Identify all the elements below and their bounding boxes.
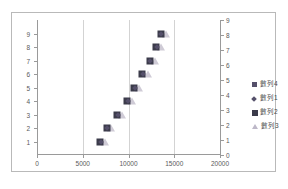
legend-marker-icon [252,124,258,129]
bar[interactable] [38,110,175,119]
y-axis-tick-label: 1 [16,138,30,145]
bar[interactable] [38,97,175,106]
y-axis-tick [34,88,37,89]
y-axis-tick [34,74,37,75]
x-axis-tick-label: 20000 [211,160,229,167]
y-axis-tick-label: 9 [16,30,30,37]
secondary-y-axis-tick [221,50,224,51]
secondary-y-axis-tick-label: 0 [226,152,230,159]
chart-object-frame[interactable]: 123456789 0123456789 0500010000150002000… [11,12,276,172]
secondary-y-axis-tick-label: 1 [226,137,230,144]
y-axis-tick-label: 6 [16,71,30,78]
secondary-y-axis-tick [221,20,224,21]
y-axis-tick-label: 2 [16,125,30,132]
y-axis-tick-label: 3 [16,111,30,118]
plot-inner [37,20,220,155]
legend-item-label: 數列1 [260,95,278,102]
secondary-y-axis-tick-label: 7 [226,47,230,54]
x-axis-tick [129,155,130,158]
x-axis-tick-label: 15000 [165,160,183,167]
legend-marker-icon [252,110,258,116]
legend-marker-icon [251,96,257,102]
legend-item[interactable]: 數列4 [252,79,288,90]
x-axis-tick [83,155,84,158]
y-axis-tick [34,128,37,129]
legend-item[interactable]: 數列3 [252,121,288,132]
secondary-y-axis-tick [221,110,224,111]
screenshot-root: 123456789 0123456789 0500010000150002000… [0,0,288,189]
y-axis-tick [34,61,37,62]
secondary-y-axis-tick [221,140,224,141]
x-axis-tick-label: 5000 [76,160,90,167]
y-axis-tick [34,34,37,35]
secondary-y-axis-tick-label: 2 [226,122,230,129]
secondary-y-axis-tick [221,95,224,96]
legend-item[interactable]: 數列2 [252,107,288,118]
secondary-y-axis-tick-label: 9 [226,17,230,24]
y-axis-tick-label: 5 [16,84,30,91]
bar[interactable] [38,29,175,38]
secondary-y-axis-tick [221,125,224,126]
x-axis-tick [37,155,38,158]
secondary-y-axis-tick-label: 5 [226,77,230,84]
x-axis-tick-label: 0 [35,160,39,167]
y-axis-tick [34,115,37,116]
legend-item-label: 數列3 [261,123,279,130]
bar[interactable] [38,83,175,92]
y-axis-tick [34,142,37,143]
y-axis-tick-label: 4 [16,98,30,105]
secondary-y-axis-tick [221,35,224,36]
secondary-y-axis-tick [221,65,224,66]
legend-item-label: 數列2 [260,109,278,116]
secondary-y-axis-tick-label: 6 [226,62,230,69]
legend-marker-icon [252,82,257,87]
y-axis-tick [34,47,37,48]
secondary-y-axis-tick [221,80,224,81]
secondary-y-axis-line [220,20,221,155]
x-axis-tick-label: 10000 [119,160,137,167]
y-axis-tick [34,101,37,102]
secondary-y-axis-tick-label: 3 [226,107,230,114]
legend-item[interactable]: 數列1 [252,93,288,104]
secondary-y-axis-tick-label: 8 [226,32,230,39]
secondary-y-axis-tick-label: 4 [226,92,230,99]
y-axis-tick-label: 8 [16,44,30,51]
bar[interactable] [38,70,175,79]
x-axis-tick [174,155,175,158]
secondary-y-axis-tick [221,155,224,156]
legend-item-label: 數列4 [260,81,278,88]
plot-area [37,20,220,155]
y-axis-tick-label: 7 [16,57,30,64]
chart-legend[interactable]: 數列4數列1數列2數列3 [252,79,288,135]
y-axis-line [37,20,38,155]
